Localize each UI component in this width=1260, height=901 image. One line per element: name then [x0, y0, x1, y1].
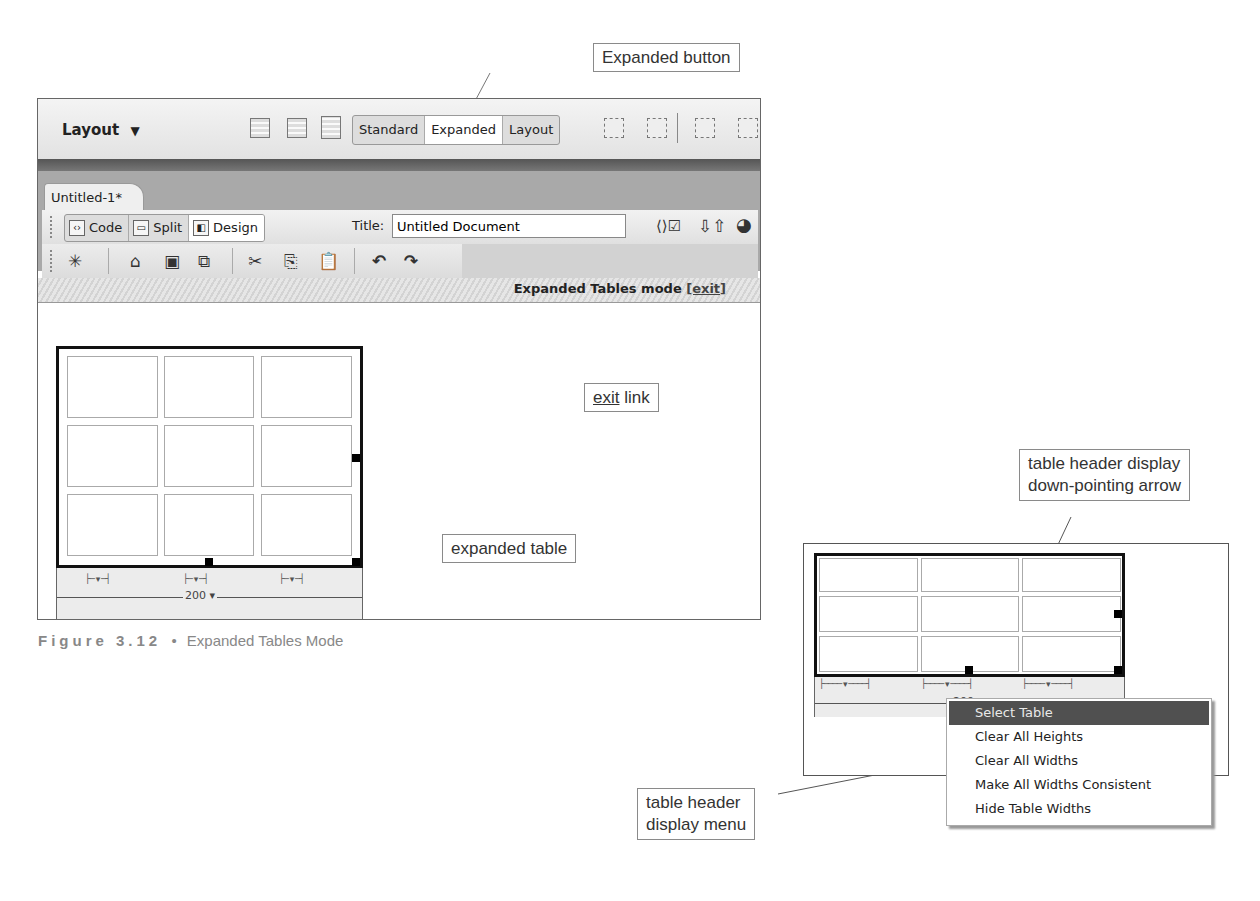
table-cell[interactable]: [819, 596, 918, 632]
table-width-value[interactable]: 200 ▾: [183, 589, 217, 602]
callout-header-arrow: table header display down-pointing arrow: [1019, 449, 1190, 501]
menu-item-hide-table-widths[interactable]: Hide Table Widths: [949, 797, 1209, 821]
menu-item-clear-all-widths[interactable]: Clear All Widths: [949, 749, 1209, 773]
table-cell[interactable]: [819, 636, 918, 672]
table-cell[interactable]: [921, 596, 1019, 632]
table-cell[interactable]: [67, 356, 158, 418]
callout-text-line1: table header: [646, 792, 746, 814]
save-all-icon[interactable]: ⧉: [198, 251, 210, 271]
undo-icon[interactable]: ↶: [372, 251, 386, 271]
table-cell[interactable]: [164, 425, 254, 487]
layer-icon[interactable]: [321, 116, 341, 139]
resize-handle-right[interactable]: [352, 454, 360, 462]
document-title-input[interactable]: [392, 214, 626, 238]
table-width-number: 200: [185, 589, 206, 602]
preview-browser-icon[interactable]: ◕: [736, 215, 752, 235]
column-width-indicator[interactable]: ├─ ▾ ─┤: [85, 574, 110, 584]
design-view-button[interactable]: ◧ Design: [189, 215, 264, 241]
expanded-tables-mode-bar: Expanded Tables mode [exit]: [38, 278, 760, 303]
insert-category-label: Layout: [62, 121, 119, 139]
draw-layout-cell-icon[interactable]: [647, 118, 667, 138]
callout-header-menu: table header display menu: [637, 788, 755, 840]
new-file-icon[interactable]: ✳: [68, 251, 82, 271]
caption-bullet: •: [171, 632, 176, 649]
callout-text-underlined: exit: [593, 388, 619, 407]
table-cell[interactable]: [164, 356, 254, 418]
callout-expanded-table: expanded table: [442, 534, 576, 563]
title-label: Title:: [352, 218, 384, 233]
resize-handle-corner[interactable]: [1114, 666, 1122, 674]
code-view-button[interactable]: ‹› Code: [65, 215, 129, 241]
mode-bar-label: Expanded Tables mode: [514, 281, 687, 296]
figure-number: Figure 3.12: [38, 632, 161, 649]
redo-icon[interactable]: ↷: [404, 251, 418, 271]
menu-item-make-widths-consistent[interactable]: Make All Widths Consistent: [949, 773, 1209, 797]
design-view-icon: ◧: [193, 220, 209, 236]
view-switcher: ‹› Code ▭ Split ◧ Design: [64, 214, 265, 242]
insert-row-below-icon[interactable]: [738, 118, 758, 138]
insert-category-menu[interactable]: Layout ▼: [62, 121, 140, 139]
table-cell[interactable]: [261, 425, 352, 487]
resize-handle-bottom[interactable]: [965, 666, 973, 674]
toolbar-separator: [108, 248, 109, 274]
table-cell[interactable]: [261, 494, 352, 556]
table-cell[interactable]: [1022, 596, 1121, 632]
design-view-label: Design: [213, 215, 258, 241]
column-width-indicator[interactable]: ├──── ▾ ────┤: [921, 679, 972, 689]
code-view-label: Code: [89, 215, 122, 241]
table-mode-buttons: Standard Expanded Layout: [352, 115, 560, 145]
resize-handle-bottom[interactable]: [205, 558, 213, 566]
mode-bar-text: Expanded Tables mode [exit]: [514, 281, 726, 296]
menu-item-clear-all-heights[interactable]: Clear All Heights: [949, 725, 1209, 749]
figure-caption: Figure 3.12 • Expanded Tables Mode: [38, 632, 343, 649]
column-width-indicator[interactable]: ├─ ▾ ─┤: [183, 574, 208, 584]
column-width-indicator[interactable]: ├──── ▾ ────┤: [819, 679, 870, 689]
table-cell[interactable]: [1022, 636, 1121, 672]
callout-text: expanded table: [451, 539, 567, 558]
layout-mode-button[interactable]: Layout: [503, 116, 559, 144]
insert-row-above-icon[interactable]: [695, 118, 715, 138]
table-cell[interactable]: [164, 494, 254, 556]
document-tab[interactable]: Untitled-1*: [44, 183, 144, 211]
table-cell[interactable]: [67, 425, 158, 487]
validate-markup-icon[interactable]: ⟨⟩☑: [656, 216, 681, 236]
callout-text-line2: down-pointing arrow: [1028, 475, 1181, 497]
standard-mode-button[interactable]: Standard: [353, 116, 425, 144]
dreamweaver-window-expanded-mode: Layout ▼ Standard Expanded Layout Untitl…: [37, 98, 761, 620]
insert-div-icon[interactable]: [287, 118, 307, 138]
column-width-indicator[interactable]: ├─ ▾ ─┤: [279, 574, 304, 584]
document-toolbar: ‹› Code ▭ Split ◧ Design Title: ⟨⟩☑ ⇩⇧ ◕: [42, 210, 758, 245]
panel-divider: [38, 159, 760, 171]
table-cell[interactable]: [819, 558, 918, 592]
table-cell[interactable]: [921, 558, 1019, 592]
paste-icon[interactable]: 📋: [318, 251, 339, 271]
resize-handle-corner[interactable]: [352, 558, 360, 566]
file-management-icon[interactable]: ⇩⇧: [698, 216, 727, 236]
expanded-table[interactable]: [56, 346, 363, 568]
split-view-button[interactable]: ▭ Split: [129, 215, 189, 241]
table-cell[interactable]: [1022, 558, 1121, 592]
insert-bar: Layout ▼ Standard Expanded Layout: [38, 99, 760, 160]
figure-title: Expanded Tables Mode: [187, 632, 344, 649]
copy-icon[interactable]: ⎘: [284, 251, 298, 271]
split-view-icon: ▭: [133, 220, 149, 236]
toolbar-grip[interactable]: [50, 250, 55, 272]
column-width-indicator[interactable]: ├──── ▾ ────┤: [1022, 679, 1073, 689]
menu-item-select-table[interactable]: Select Table: [949, 701, 1209, 725]
table-cell[interactable]: [261, 356, 352, 418]
toolbar-separator: [354, 248, 355, 274]
toolbar-grip[interactable]: [50, 216, 55, 238]
cut-icon[interactable]: ✂: [248, 251, 262, 271]
resize-handle-right[interactable]: [1114, 610, 1122, 618]
exit-link[interactable]: [exit]: [686, 281, 726, 296]
table-width-display: ├─ ▾ ─┤ ├─ ▾ ─┤ ├─ ▾ ─┤ 200 ▾: [56, 568, 363, 620]
toolbar-separator: [677, 113, 678, 143]
expanded-mode-button[interactable]: Expanded: [425, 116, 503, 144]
layout-table-icon[interactable]: [604, 118, 624, 138]
table-icon[interactable]: [250, 118, 270, 138]
open-icon[interactable]: ⌂: [130, 251, 141, 271]
table-cell[interactable]: [67, 494, 158, 556]
expanded-table[interactable]: [814, 553, 1125, 677]
save-icon[interactable]: ▣: [164, 251, 180, 271]
callout-text-line1: table header display: [1028, 453, 1181, 475]
